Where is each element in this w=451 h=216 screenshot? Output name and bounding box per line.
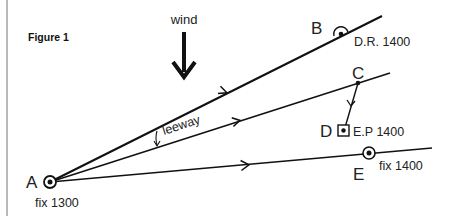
point-a-fix-symbol [44,176,56,188]
point-a-label: A [26,173,38,192]
wind-arrow-icon [173,32,195,77]
figure-title: Figure 1 [28,31,69,43]
point-a-note: fix 1300 [35,196,79,210]
point-b-note: D.R. 1400 [354,35,410,49]
point-e-fix-symbol [363,147,375,159]
wind-label: wind [170,12,198,27]
point-b-label: B [311,19,322,38]
point-d-ep-symbol [338,125,349,136]
point-d-label: D [320,122,332,141]
tide-vector-cd [344,83,358,131]
point-d-note: E.P 1400 [353,125,404,139]
point-e-label: E [353,165,364,184]
point-e-note: fix 1400 [379,159,423,173]
navigation-diagram: Figure 1 wind leeway A fix 1300 B D.R. 1… [0,0,451,216]
point-c-label: C [352,64,364,83]
